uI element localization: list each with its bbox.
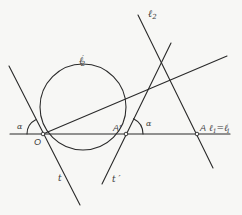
label-point-a: A xyxy=(199,123,206,133)
label-l1-equals-l1-prime: ℓ1=ℓ′1 xyxy=(209,122,230,134)
label-alpha-left: α xyxy=(17,122,23,131)
line-l2 xyxy=(138,15,213,168)
label-point-o: O xyxy=(34,137,41,147)
angle-arc-alpha-a-prime xyxy=(134,119,144,134)
circle-l2-prime xyxy=(40,64,126,150)
label-l2-prime: ℓ′2 xyxy=(79,54,86,68)
angle-arc-alpha-o xyxy=(27,120,36,134)
line-t-prime xyxy=(102,43,171,184)
label-line-t-prime: t ′ xyxy=(112,174,121,184)
label-point-a-prime: A′ xyxy=(112,123,121,133)
label-line-t: t xyxy=(58,173,62,183)
label-l2: ℓ2 xyxy=(148,8,157,21)
point-o xyxy=(41,132,45,136)
label-alpha-right: α xyxy=(146,119,152,128)
geometry-diagram: ℓ2 ℓ′2 α α O A′ A ℓ1=ℓ′1 t t ′ xyxy=(0,0,242,215)
point-a xyxy=(195,132,199,136)
point-a-prime xyxy=(124,132,128,136)
